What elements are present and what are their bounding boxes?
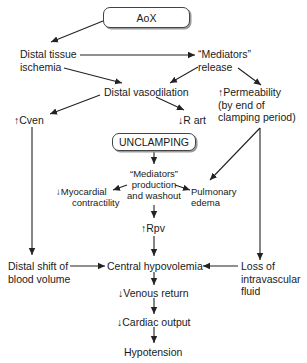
edge-permeability-edema	[210, 128, 260, 180]
node-central-hypovolemia: Central hypovolemia	[107, 260, 203, 273]
node-distal-shift: Distal shift of blood volume	[8, 260, 70, 285]
node-mediators-production: “Mediators” production and washout	[122, 168, 186, 201]
edge-vasodilation-rart	[156, 97, 184, 110]
node-venous-return: ↓Venous return	[118, 287, 189, 300]
node-cven: ↑Cven	[14, 114, 44, 127]
node-permeability: ↑Permeability (by end of clamping period…	[218, 86, 296, 124]
node-mediators-release: “Mediators” release	[198, 48, 251, 73]
node-hypotension: Hypotension	[124, 346, 182, 359]
edge-vasodilation-cven	[50, 95, 100, 114]
node-loss-intravascular-fluid: Loss of intravascular fluid	[241, 260, 301, 298]
edge-mediators-vasodilation	[170, 67, 198, 83]
node-rpv: ↑Rpv	[141, 222, 165, 235]
node-myocardial-contractility: ↓Myocardial contractility	[56, 186, 120, 208]
unclamping-box: UNCLAMPING	[112, 133, 196, 151]
node-distal-vasodilation: Distal vasodilation	[104, 86, 189, 99]
node-pulmonary-edema: Pulmonary edema	[191, 186, 236, 208]
edge-aox-ischemia	[51, 21, 103, 42]
node-distal-tissue-ischemia: Distal tissue ischemia	[20, 48, 77, 73]
node-r-art: ↓R art	[178, 114, 206, 127]
node-cardiac-output: ↓Cardiac output	[117, 316, 191, 329]
aox-box: AoX	[103, 7, 190, 28]
